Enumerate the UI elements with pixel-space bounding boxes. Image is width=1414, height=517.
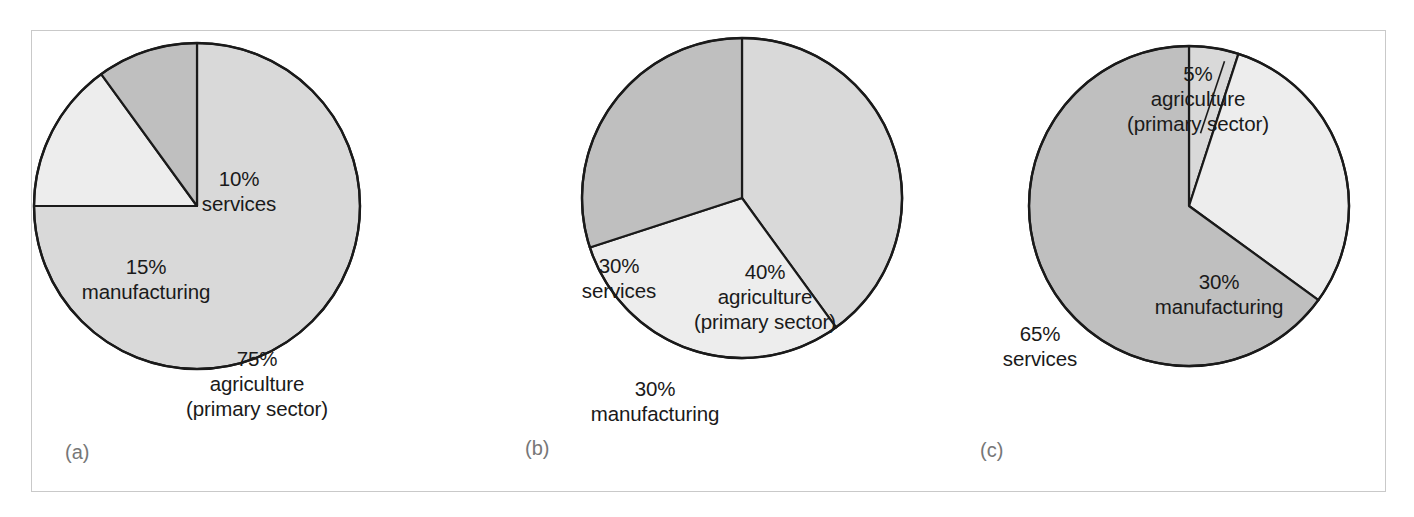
slice-label-agriculture: 5%agriculture(primary sector) [1083,61,1313,136]
slice-label-agriculture: 75%agriculture(primary sector) [142,346,372,421]
panel-letter-b: (b) [525,437,549,460]
slice-label-manufacturing: 15%manufacturing [46,254,246,304]
slice-label-manufacturing: 30%manufacturing [1119,269,1319,319]
figure-frame: 10%services 15%manufacturing 75%agricult… [31,30,1386,492]
slice-label-agriculture: 40%agriculture(primary sector) [655,259,875,334]
panel-letter-c: (c) [980,439,1003,462]
pie-chart-panel-a: 10%services 15%manufacturing 75%agricult… [32,31,487,493]
pie-chart-panel-c: 5%agriculture(primary sector) 30%manufac… [937,31,1387,493]
pie-chart-panel-b: 30%services 40%agriculture(primary secto… [487,31,937,493]
slice-label-services: 10%services [174,166,304,216]
slice-label-manufacturing: 30%manufacturing [555,376,755,426]
slice-label-services: 65%services [970,321,1110,371]
panel-letter-a: (a) [65,441,89,464]
